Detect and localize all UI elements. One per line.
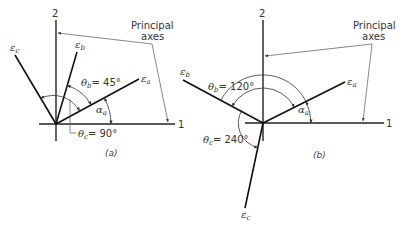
principal-axes-label-line2: axes [362, 31, 385, 42]
label-theta-b: θb= 45° [81, 77, 121, 90]
axis-2-label: 2 [259, 8, 265, 19]
label-alpha-a: αa [96, 104, 107, 117]
label-theta-c: θc= 90° [78, 128, 117, 141]
strain-rosette-diagram: 2 1 Principal axes εa εb εc αa θb= 45° θ… [0, 0, 400, 228]
principal-axes-label-line1: Principal [131, 20, 174, 31]
axis-2-label: 2 [52, 8, 58, 19]
panel-a: 2 1 Principal axes εa εb εc αa θb= 45° θ… [10, 8, 184, 158]
caption-b: (b) [313, 150, 326, 160]
label-epsilon-b: εb [75, 39, 85, 52]
panel-b: 2 1 Principal axes εa εb εc αa θb= 120° … [180, 8, 396, 222]
axis-1-label: 1 [178, 119, 184, 130]
principal-axes-leader-1 [363, 44, 372, 121]
label-epsilon-a: εa [347, 76, 357, 89]
principal-axes-label-line1: Principal [353, 20, 396, 31]
label-theta-c: θc= 240° [203, 134, 249, 147]
caption-a: (a) [105, 148, 118, 158]
label-epsilon-a: εa [141, 73, 151, 86]
principal-axes-leader-1 [152, 44, 168, 122]
vector-epsilon-c [15, 55, 56, 124]
label-alpha-a: αa [298, 104, 309, 117]
label-epsilon-c: εc [10, 42, 19, 55]
principal-axes-leader-2 [58, 33, 152, 44]
principal-axes-leader-2 [265, 44, 372, 56]
principal-axes-label-line2: axes [141, 31, 164, 42]
axis-1-label: 1 [386, 118, 392, 129]
label-epsilon-b: εb [180, 66, 190, 79]
label-epsilon-c: εc [241, 209, 250, 222]
